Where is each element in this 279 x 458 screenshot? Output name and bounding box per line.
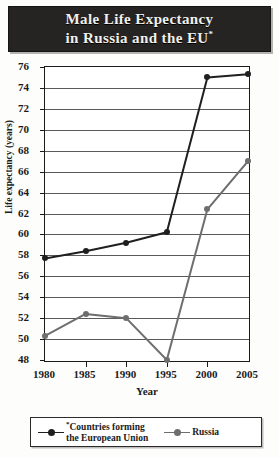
y-tick-label: 64 [0,186,29,198]
y-tick-label: 70 [0,123,29,135]
y-tick-label: 60 [0,227,29,239]
y-tick-label: 62 [0,207,29,219]
data-point-russia [245,158,251,164]
data-point-eu [164,229,170,235]
legend-label-russia: Russia [192,427,219,438]
legend-item-eu[interactable]: *Countries formingthe European Union [38,421,148,443]
legend-item-russia[interactable]: Russia [164,427,219,438]
y-tick-label: 76 [0,60,29,72]
x-tick-mark [207,361,208,367]
y-tick-label: 72 [0,102,29,114]
chart-figure: Male Life Expectancy in Russia and the E… [0,0,279,458]
x-tick-label: 2000 [183,368,229,380]
data-point-eu [245,71,251,77]
x-tick-label: 1980 [21,368,67,380]
data-point-russia [83,311,89,317]
data-point-russia [123,315,129,321]
y-tick-label: 68 [0,144,29,156]
chart-title-line-1: Male Life Expectancy [66,10,214,29]
y-tick-label: 48 [0,353,29,365]
y-tick-label: 74 [0,81,29,93]
legend-marker-eu-icon [38,427,64,437]
series-line-eu [45,74,248,258]
legend-label-eu: *Countries formingthe European Union [66,421,148,443]
y-tick-label: 54 [0,290,29,302]
y-tick-label: 52 [0,311,29,323]
x-tick-label: 1985 [62,368,108,380]
y-tick-label: 50 [0,332,29,344]
data-point-eu [42,255,48,261]
x-axis-label: Year [44,385,250,397]
chart-title-asterisk: * [209,29,214,39]
x-tick-label: 1995 [143,368,189,380]
plot-area [44,66,250,362]
x-tick-label: 2005 [224,368,270,380]
y-tick-label: 58 [0,248,29,260]
legend-eu-line2: the European Union [66,433,148,443]
y-tick-label: 66 [0,165,29,177]
legend-eu-line1: Countries forming [70,422,145,432]
x-tick-label: 1990 [102,368,148,380]
y-tick-label: 56 [0,269,29,281]
x-tick-mark [86,361,87,367]
chart-title-banner: Male Life Expectancy in Russia and the E… [8,6,271,52]
series-lines [45,67,248,360]
legend-marker-russia-icon [164,427,190,437]
data-point-russia [164,357,170,363]
data-point-russia [42,333,48,339]
chart-legend: *Countries formingthe European Union Rus… [30,417,262,447]
data-point-eu [83,248,89,254]
data-point-russia [204,206,210,212]
series-line-russia [45,161,248,360]
y-tick-mark [40,360,45,361]
x-tick-mark [126,361,127,367]
data-point-eu [123,240,129,246]
chart-title-line-2: in Russia and the EU* [66,29,214,48]
chart-title-line-2-text: in Russia and the EU [66,30,209,46]
data-point-eu [204,74,210,80]
